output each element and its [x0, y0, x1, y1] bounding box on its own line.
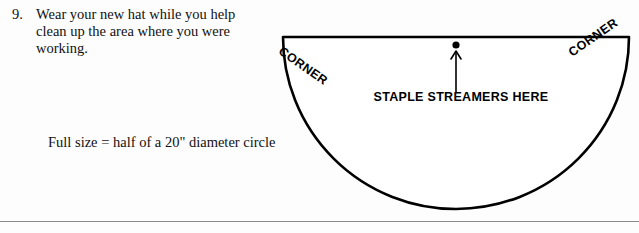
staple-streamers-label: STAPLE STREAMERS HERE	[371, 90, 551, 104]
staple-point-dot	[452, 41, 459, 48]
full-size-caption: Full size = half of a 20" diameter circl…	[48, 134, 275, 151]
page-separator-rule	[0, 221, 639, 222]
instruction-text: Wear your new hat while you help clean u…	[36, 6, 251, 57]
list-number: 9.	[12, 6, 36, 23]
instruction-item-9: 9. Wear your new hat while you help clea…	[12, 6, 262, 57]
scanned-page: 9. Wear your new hat while you help clea…	[0, 0, 639, 233]
pattern-diagram: CORNER CORNER STAPLE STREAMERS HERE	[276, 28, 638, 220]
